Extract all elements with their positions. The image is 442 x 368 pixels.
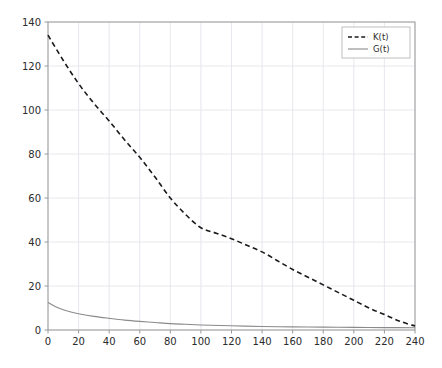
y-tick-label: 20 [28,281,41,292]
legend-label-kt: K(t) [373,32,389,42]
y-tick-label: 100 [22,105,41,116]
x-tick-label: 80 [164,336,177,347]
x-tick-label: 200 [344,336,363,347]
x-tick-label: 60 [133,336,146,347]
y-tick-label: 40 [28,237,41,248]
x-tick-label: 0 [45,336,51,347]
y-tick-label: 60 [28,193,41,204]
y-tick-label: 140 [22,17,41,28]
line-chart: 020406080100120140160180200220240 020406… [0,0,442,368]
x-tick-label: 220 [375,336,394,347]
legend-label-gt: G(t) [373,44,390,54]
x-tick-label: 20 [72,336,85,347]
x-tick-label: 180 [314,336,333,347]
chart-figure: 020406080100120140160180200220240 020406… [0,0,442,368]
x-tick-label: 40 [103,336,116,347]
x-tick-label: 140 [253,336,272,347]
x-tick-label: 160 [283,336,302,347]
y-tick-label: 80 [28,149,41,160]
x-tick-label: 100 [191,336,210,347]
y-tick-label: 0 [35,325,41,336]
chart-legend: K(t)G(t) [342,27,410,58]
x-tick-label: 120 [222,336,241,347]
x-tick-label: 240 [405,336,424,347]
y-tick-label: 120 [22,61,41,72]
